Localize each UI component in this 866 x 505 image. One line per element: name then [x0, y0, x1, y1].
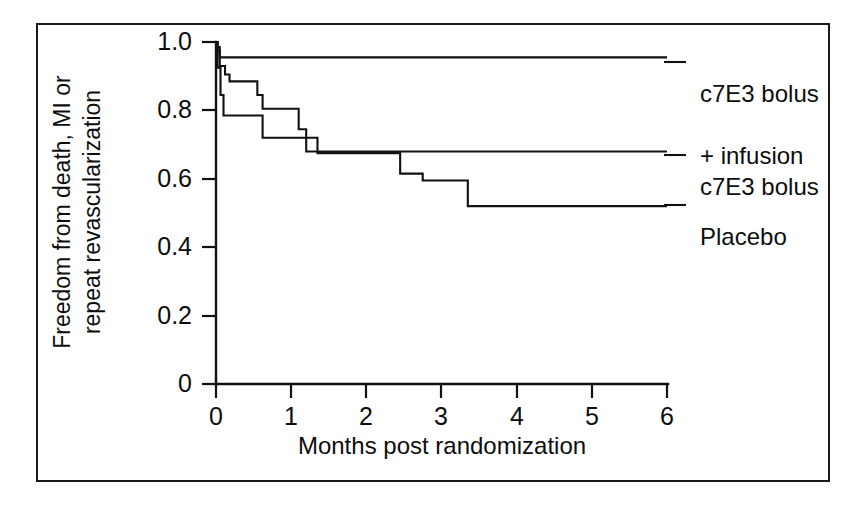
- y-tick-label-0.6: 0.6: [110, 164, 192, 193]
- x-tick-label-0: 0: [196, 402, 236, 431]
- y-tick-label-0.8: 0.8: [110, 95, 192, 124]
- x-tick-label-6: 6: [647, 402, 687, 431]
- x-tick-label-2: 2: [346, 402, 386, 431]
- y-axis-title-line-2: repeat revascularization: [77, 47, 107, 377]
- y-tick-label-0.2: 0.2: [110, 301, 192, 330]
- y-tick-label-1.0: 1.0: [110, 27, 192, 56]
- x-axis-title: Months post randomization: [216, 432, 668, 460]
- figure-root: 1.0 0.8 0.6 0.4 0.2 0 0 1 2 3 4 5 6 Mont…: [0, 0, 866, 505]
- x-tick-label-1: 1: [271, 402, 311, 431]
- legend-label-line-1: c7E3 bolus: [700, 78, 850, 109]
- km-curve-placebo: [216, 42, 667, 206]
- km-curve-c7e3-bolus-infusion: [216, 42, 667, 57]
- legend-label-placebo: Placebo: [700, 190, 850, 283]
- x-tick-label-4: 4: [497, 402, 537, 431]
- y-tick-label-0: 0: [110, 369, 192, 398]
- x-tick-label-5: 5: [572, 402, 612, 431]
- y-tick-label-0.4: 0.4: [110, 232, 192, 261]
- legend-label-line-1: Placebo: [700, 221, 850, 252]
- y-axis-title: Freedom from death, MI or repeat revascu…: [47, 47, 107, 377]
- y-axis-title-line-1: Freedom from death, MI or: [47, 47, 77, 377]
- x-tick-label-3: 3: [421, 402, 461, 431]
